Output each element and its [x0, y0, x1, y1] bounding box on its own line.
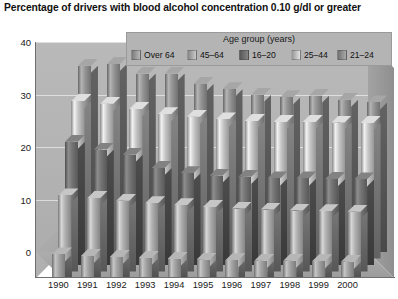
bar-Over-64-2000 [341, 262, 354, 278]
x-tick-label: 1991 [77, 280, 98, 290]
bar-face [254, 261, 267, 278]
legend-items: Over 6445–6416–2025–4421–24 [131, 48, 387, 62]
bar-side [309, 178, 316, 265]
bar-side [367, 179, 374, 265]
y-tick-label: 40 [20, 37, 31, 48]
bar-side [374, 123, 381, 258]
bar-face [168, 259, 181, 278]
bar-side [274, 210, 281, 272]
legend-swatch [131, 50, 141, 60]
bar-face [197, 260, 210, 278]
chart-title: Percentage of drivers with blood alcohol… [4, 2, 396, 13]
bar-Over-64-1994 [168, 259, 181, 278]
x-tick-label: 1992 [106, 280, 127, 290]
bar-face [52, 254, 65, 278]
bar-face [110, 257, 123, 278]
legend: Age group (years) Over 6445–6416–2025–44… [126, 32, 392, 66]
bar-side [216, 207, 223, 272]
bar-face [225, 260, 238, 278]
x-tick-label: 1996 [222, 280, 243, 290]
legend-swatch [239, 50, 249, 60]
bar-face [81, 256, 94, 278]
bar-side [71, 195, 78, 271]
bar-Over-64-1999 [312, 261, 325, 278]
bar-side [251, 177, 258, 265]
legend-swatch [337, 50, 347, 60]
bar-side [338, 179, 345, 265]
bar-side [223, 176, 230, 265]
x-tick-label: 1995 [193, 280, 214, 290]
bar-side [78, 142, 85, 265]
x-tick-label: 1998 [279, 280, 300, 290]
y-tick-label: 20 [20, 142, 31, 153]
bar-face [283, 261, 296, 278]
bar-Over-64-1991 [81, 256, 94, 278]
bar-face [139, 258, 152, 278]
legend-item-21–24[interactable]: 21–24 [337, 48, 374, 62]
x-tick-label: 2000 [337, 280, 358, 290]
plot-area [36, 42, 394, 278]
bar-Over-64-1990 [52, 254, 65, 278]
bar-side [361, 212, 368, 272]
x-axis-labels: 1990199119921993199419951996199719981999… [36, 280, 394, 298]
x-tick-label: 1997 [250, 280, 271, 290]
x-tick-label: 1994 [164, 280, 185, 290]
bar-side [303, 211, 310, 272]
x-tick-label: 1993 [135, 280, 156, 290]
legend-label: Over 64 [144, 50, 175, 60]
legend-item-16–20[interactable]: 16–20 [239, 48, 276, 62]
chart-page: Percentage of drivers with blood alcohol… [0, 0, 398, 299]
y-axis: 010203040 [0, 42, 36, 278]
bar-side [245, 209, 252, 272]
bar-Over-64-1992 [110, 257, 123, 278]
legend-label: 45–64 [200, 50, 224, 60]
x-tick-label: 1990 [48, 280, 69, 290]
bar-side [136, 155, 143, 265]
bar-Over-64-1996 [225, 260, 238, 278]
y-tick-label: 10 [20, 194, 31, 205]
legend-label: 16–20 [252, 50, 276, 60]
bar-side [187, 205, 194, 271]
bar-side [332, 211, 339, 271]
legend-label: 21–24 [350, 50, 374, 60]
plot-3d-box [36, 42, 394, 278]
bar-Over-64-1993 [139, 258, 152, 278]
bar-side [280, 178, 287, 265]
bar-side [194, 173, 201, 265]
bar-Over-64-1995 [197, 260, 210, 278]
x-axis-line [35, 277, 395, 278]
legend-swatch [291, 50, 301, 60]
bar-side [129, 201, 136, 272]
bar-side [380, 102, 387, 252]
bar-side [107, 150, 114, 266]
legend-title: Age group (years) [127, 34, 391, 44]
legend-item-Over-64[interactable]: Over 64 [131, 48, 175, 62]
legend-item-25–44[interactable]: 25–44 [291, 48, 328, 62]
bar-Over-64-1997 [254, 261, 267, 278]
legend-item-45–64[interactable]: 45–64 [187, 48, 224, 62]
y-tick-label: 30 [20, 89, 31, 100]
bar-side [158, 203, 165, 271]
bar-face [312, 261, 325, 278]
y-tick-label: 0 [26, 247, 31, 258]
bar-side [100, 198, 107, 272]
legend-swatch [187, 50, 197, 60]
bar-side [165, 168, 172, 265]
bar-face [341, 262, 354, 278]
legend-label: 25–44 [304, 50, 328, 60]
bar-Over-64-1998 [283, 261, 296, 278]
x-tick-label: 1999 [308, 280, 329, 290]
